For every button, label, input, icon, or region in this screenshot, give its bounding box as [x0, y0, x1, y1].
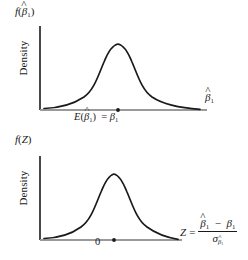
panel-sampling-distribution: f(β1) Density E(β1) = β1 β1	[0, 0, 248, 130]
density-curve-bottom	[44, 174, 178, 239]
z-formula-fraction: β1 − β1 σβ1	[198, 218, 237, 247]
zero-tick-label: 0	[95, 237, 100, 248]
z-formula-denominator: σβ1	[211, 232, 225, 247]
x-axis-label-bottom: Z = β1 − β1 σβ1	[180, 218, 237, 247]
z-formula-numerator: β1 − β1	[198, 218, 237, 231]
panel-standard-normal: f(Z) Density 0 Z = β1 − β1 σβ1	[0, 130, 248, 260]
mean-annotation-label-top: E(β1) = β1	[74, 112, 118, 123]
plot-area-top	[0, 0, 248, 130]
equals-symbol: =	[189, 227, 195, 238]
z-symbol: Z	[180, 227, 186, 238]
x-axis-label-top: β1	[205, 92, 214, 105]
density-curve-top	[44, 44, 200, 109]
mean-marker-dot-bottom	[112, 238, 116, 242]
density-figure: f(β1) Density E(β1) = β1 β1 f(Z) Density	[0, 0, 248, 260]
